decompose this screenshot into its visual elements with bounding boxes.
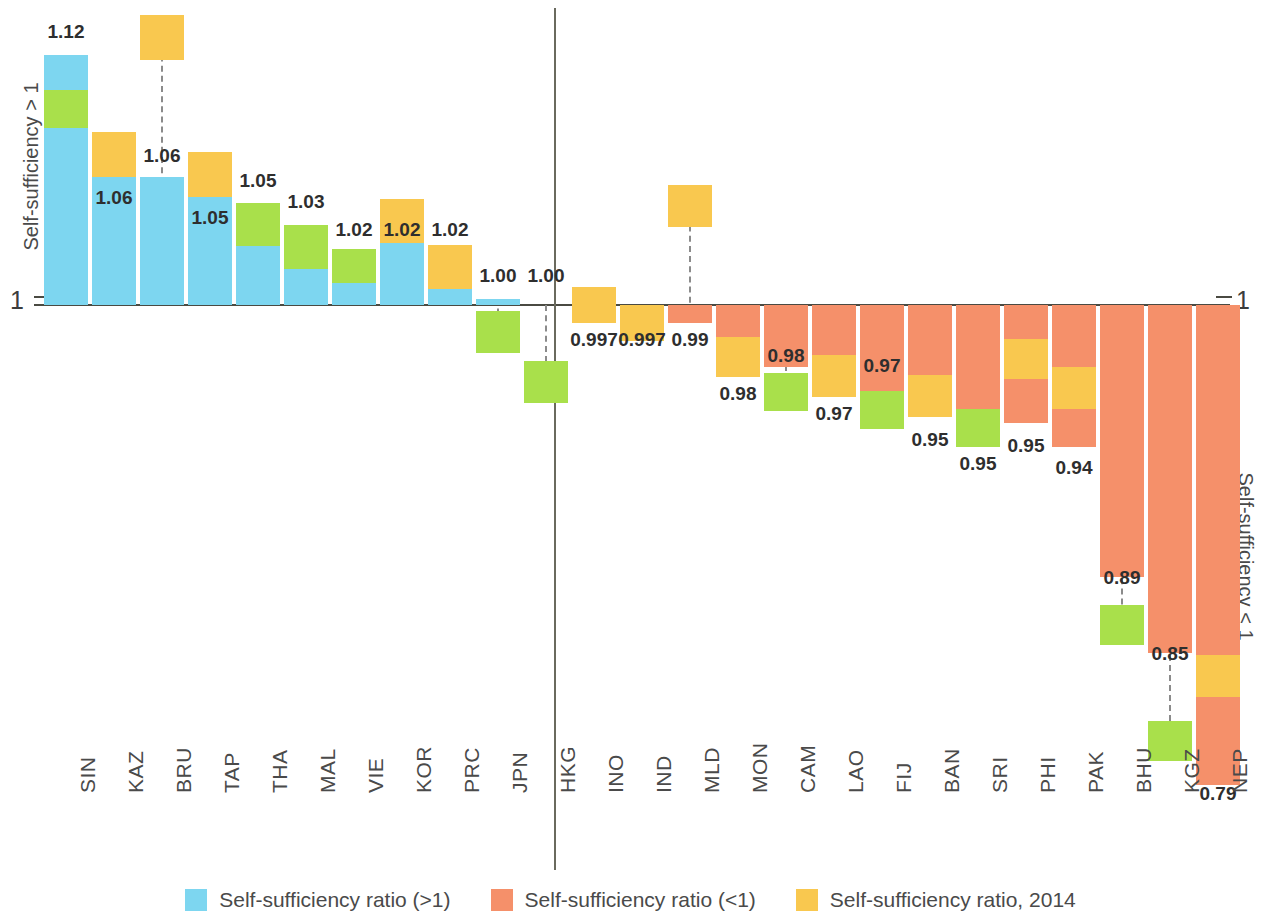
chart-legend: Self-sufficiency ratio (>1)Self-sufficie… [0,888,1261,912]
x-label-cam: CAM [796,745,820,793]
x-label-jpn: JPN [508,752,532,793]
x-label-tha: THA [268,750,292,794]
bar-segment-yellow [1052,367,1096,409]
x-label-prc: PRC [460,747,484,793]
y-axis-title-left: Self-sufficiency > 1 [20,52,43,282]
x-label-lao: LAO [844,749,868,793]
value-label-hkg: 1.00 [506,265,586,287]
bar-segment-orange [1196,305,1240,655]
marker-2014 [140,15,184,60]
marker-green [476,311,520,353]
value-label-tha: 1.05 [218,170,298,192]
legend-label: Self-sufficiency ratio (<1) [525,888,756,912]
value-label-sin: 1.12 [26,21,106,43]
legend-swatch-icon [491,889,513,911]
bar-segment-orange [1052,305,1096,367]
chart-container: 1 1 Self-sufficiency > 1 Self-sufficienc… [0,0,1261,921]
bar-segment-orange [908,305,952,375]
x-label-mon: MON [748,743,772,794]
axis-tick-right [1216,296,1232,298]
marker-green [860,391,904,429]
bar-segment-orange [1004,379,1048,423]
bar-segment-orange [1100,305,1144,577]
marker-green [332,249,376,283]
marker-2014 [572,287,616,323]
bar-segment-blue [476,299,520,305]
x-label-kor: KOR [412,746,436,793]
marker-green [1100,605,1144,645]
x-label-kaz: KAZ [124,751,148,793]
bar-segment-orange [716,305,760,337]
value-label-mal: 1.03 [266,191,346,213]
x-label-sri: SRI [988,756,1012,793]
bar-segment-orange [956,305,1000,409]
marker-green [524,361,568,403]
bar-segment-orange [812,305,856,355]
marker-green [44,90,88,128]
axis-baseline-label-left: 1 [10,286,24,315]
bar-segment-blue [380,243,424,305]
center-divider [554,8,556,870]
x-label-ban: BAN [940,748,964,793]
x-label-ino: INO [604,754,628,793]
x-label-mld: MLD [700,747,724,793]
x-label-pak: PAK [1084,751,1108,793]
bar-segment-yellow [1004,339,1048,379]
legend-swatch-icon [185,889,207,911]
bar-segment-orange [1052,409,1096,447]
x-label-bru: BRU [172,747,196,793]
x-label-tap: TAP [220,752,244,793]
x-label-bhu: BHU [1132,747,1156,793]
legend-label: Self-sufficiency ratio (>1) [219,888,450,912]
legend-swatch-icon [796,889,818,911]
bar-segment-blue [140,177,184,305]
x-label-nep: NEP [1228,748,1252,793]
x-label-mal: MAL [316,748,340,793]
bar-segment-yellow [1196,655,1240,697]
bar-segment-orange [1148,305,1192,653]
marker-2014 [668,185,712,227]
legend-label: Self-sufficiency ratio, 2014 [830,888,1076,912]
x-label-sin: SIN [76,756,100,793]
x-label-phi: PHI [1036,756,1060,793]
bar-segment-orange [668,305,712,323]
legend-item-1[interactable]: Self-sufficiency ratio (>1) [185,888,450,912]
x-label-hkg: HKG [556,746,580,793]
value-label-prc: 1.02 [410,219,490,241]
bar-segment-yellow [908,375,952,417]
x-label-kgz: KGZ [1180,748,1204,793]
x-label-vie: VIE [364,758,388,793]
legend-item-3[interactable]: Self-sufficiency ratio, 2014 [796,888,1076,912]
x-label-fij: FIJ [892,762,916,793]
legend-item-2[interactable]: Self-sufficiency ratio (<1) [491,888,756,912]
bar-segment-orange [1004,305,1048,339]
bar-segment-orange [860,305,904,391]
x-label-ind: IND [652,755,676,793]
